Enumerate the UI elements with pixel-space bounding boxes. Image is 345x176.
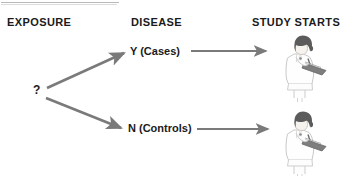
arrow-branch-to-cases: [47, 53, 124, 88]
researcher-with-clipboard-icon: [272, 104, 334, 176]
case-control-study-diagram: EXPOSURE DISEASE STUDY STARTS ? Y (Cases…: [0, 0, 345, 176]
researcher-with-clipboard-icon: [272, 28, 334, 102]
arrow-branch-to-controls: [46, 98, 121, 128]
study-figure-bottom: [272, 104, 334, 176]
study-figure-top: [272, 28, 334, 102]
